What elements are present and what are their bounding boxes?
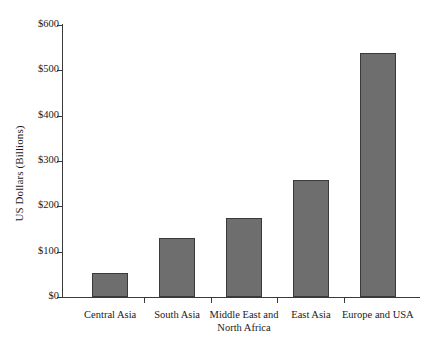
bar: [360, 53, 396, 297]
x-axis-label: Europe and USA: [338, 308, 417, 321]
y-axis-tick-label: $400: [38, 109, 59, 120]
y-axis-line: [62, 24, 63, 297]
x-axis-tick-mark: [277, 298, 278, 303]
y-axis-tick-label: $200: [38, 199, 59, 210]
bar: [226, 218, 262, 297]
x-axis-tick-mark: [344, 298, 345, 303]
bar: [159, 238, 195, 297]
x-axis-tick-mark: [211, 298, 212, 303]
x-axis-line: [62, 297, 420, 298]
plot-area: $0$100$200$300$400$500$600 Central AsiaS…: [62, 25, 420, 297]
y-axis-title: US Dollars (Billions): [8, 0, 30, 347]
y-axis-tick-label: $600: [38, 18, 59, 29]
bar: [293, 180, 329, 297]
y-axis-title-container: US Dollars (Billions): [8, 0, 30, 310]
bar: [92, 273, 128, 297]
bar-chart: US Dollars (Billions) $0$100$200$300$400…: [0, 0, 438, 347]
y-axis-tick-label: $500: [38, 63, 59, 74]
y-axis-tick-label: $0: [49, 290, 60, 301]
y-axis-tick-label: $100: [38, 245, 59, 256]
y-axis-tick-label: $300: [38, 154, 59, 165]
x-axis-tick-mark: [144, 298, 145, 303]
